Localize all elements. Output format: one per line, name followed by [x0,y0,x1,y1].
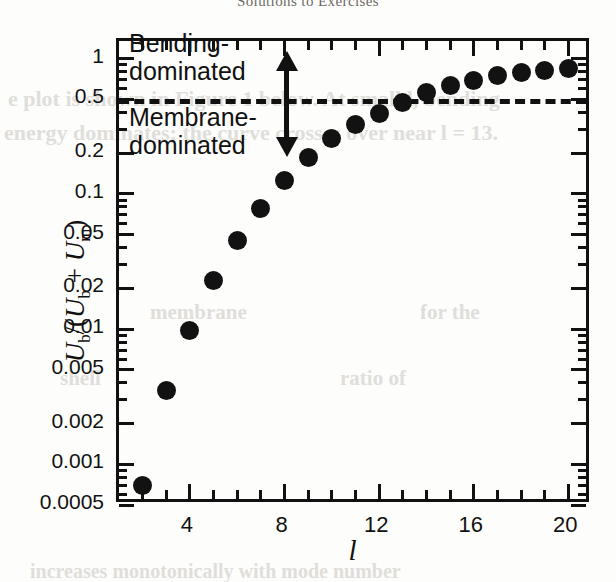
x-minor-tick-top [354,41,357,50]
y-tick-label: 0.5 [0,84,104,108]
y-major-tick [119,422,134,425]
y-minor-tick-right [578,205,586,208]
x-minor-tick [165,490,168,499]
y-minor-tick-right [578,87,586,90]
data-point [133,476,152,495]
x-minor-tick [449,490,452,499]
data-point [512,63,531,82]
y-minor-tick-right [578,476,586,479]
x-minor-tick [496,490,499,499]
y-minor-tick-right [578,263,586,266]
x-minor-tick [236,490,239,499]
x-minor-tick [307,490,310,499]
x-major-tick [188,484,191,499]
y-minor-tick [119,334,127,337]
y-minor-tick-right [578,381,586,384]
x-minor-tick-top [449,41,452,50]
y-major-tick [119,463,134,466]
data-point [299,148,318,167]
y-minor-tick-right [578,213,586,216]
x-minor-tick [330,490,333,499]
y-major-tick-right [571,152,586,155]
y-minor-tick-right [578,358,586,361]
y-minor-tick-right [578,484,586,487]
y-minor-tick [119,205,127,208]
data-point [464,71,483,90]
x-major-tick [567,484,570,499]
y-minor-tick-right [578,493,586,496]
y-minor-tick [119,476,127,479]
x-minor-tick-top [425,41,428,50]
data-point [251,199,270,218]
x-major-tick-top [378,41,381,56]
x-major-tick [472,484,475,499]
x-axis-title: l [116,534,589,567]
data-point [275,171,294,190]
y-minor-tick [119,493,127,496]
y-major-tick-right [571,463,586,466]
x-tick-label: 16 [459,512,483,538]
y-minor-tick-right [578,246,586,249]
data-point [535,61,554,80]
y-minor-tick [119,341,127,344]
membrane-label-line-2: dominated [129,131,257,159]
y-major-tick [119,192,134,195]
data-point [346,115,365,134]
y-minor-tick-right [578,70,586,73]
bending-dominated-label: Bending- dominated [129,29,246,85]
y-minor-tick-right [578,349,586,352]
y-tick-label: 1 [0,44,104,68]
running-head: Solutions to Exercises [0,0,616,10]
x-minor-tick-top [543,41,546,50]
y-minor-tick-right [578,111,586,114]
x-minor-tick-top [259,41,262,50]
x-minor-tick [401,490,404,499]
y-minor-tick [119,70,127,73]
y-minor-tick-right [578,398,586,401]
regime-arrow [276,51,298,157]
y-tick-label: 0.01 [0,314,104,338]
x-minor-tick-top [496,41,499,50]
y-minor-tick-right [578,63,586,66]
figure-page: Solutions to Exercises e plot is shown i… [0,0,616,582]
x-tick-label: 20 [553,512,577,538]
data-point [370,104,389,123]
y-major-tick [119,368,134,371]
data-point [180,321,199,340]
data-point [228,231,247,250]
arrow-head-down-icon [276,137,298,157]
bending-label-line-1: Bending- [129,29,246,57]
y-minor-tick [119,199,127,202]
x-tick-label: 8 [275,512,287,538]
y-tick-label: 0.05 [0,220,104,244]
y-minor-tick [119,398,127,401]
x-tick-label: 4 [181,512,193,538]
y-minor-tick [119,222,127,225]
plot-area: Bending- dominated Membrane- dominated [116,38,589,502]
x-minor-tick-top [330,41,333,50]
y-tick-label: 0.002 [0,409,104,433]
y-tick-label: 0.0005 [0,490,104,514]
y-minor-tick [119,349,127,352]
y-minor-tick [119,213,127,216]
y-major-tick-right [571,192,586,195]
y-tick-label: 0.02 [0,273,104,297]
y-major-tick [119,287,134,290]
x-minor-tick [425,490,428,499]
y-major-tick-right [571,504,586,507]
data-point [441,76,460,95]
x-minor-tick-top [520,41,523,50]
y-tick-label: 0.1 [0,179,104,203]
y-major-tick-right [571,368,586,371]
y-minor-tick [119,128,127,131]
data-point [157,381,176,400]
y-minor-tick-right [578,469,586,472]
y-minor-tick [119,263,127,266]
arrow-shaft [284,65,289,143]
data-point [393,93,412,112]
y-tick-label: 0.2 [0,138,104,162]
y-minor-tick-right [578,128,586,131]
x-minor-tick [259,490,262,499]
x-major-tick-top [472,41,475,56]
y-minor-tick [119,78,127,81]
